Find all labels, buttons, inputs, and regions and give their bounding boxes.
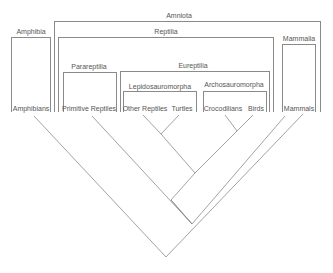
cladogram-tree: [0, 0, 333, 273]
